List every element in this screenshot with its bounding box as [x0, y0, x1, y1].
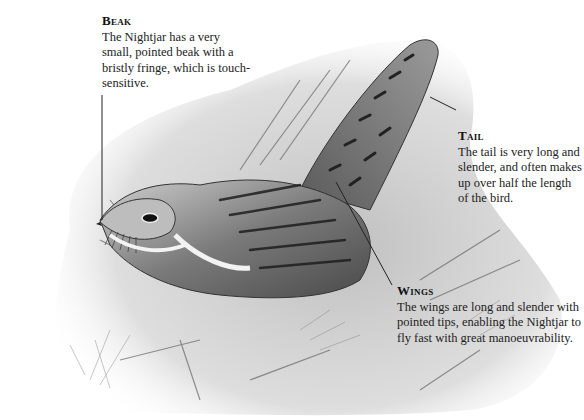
beak-description: The Nightjar has a very small, pointed b… [102, 30, 252, 92]
beak-title: Beak [102, 13, 131, 28]
tail-description: The tail is very long and slender, and o… [458, 145, 582, 207]
eye [142, 214, 158, 223]
wings-title: Wings [397, 283, 434, 298]
tail-title: Tail [458, 128, 484, 143]
tail-annotation: Tail The tail is very long and slender, … [458, 128, 582, 207]
wings-description: The wings are long and slender with poin… [397, 300, 582, 347]
wings-annotation: Wings The wings are long and slender wit… [397, 283, 582, 346]
beak-annotation: Beak The Nightjar has a very small, poin… [102, 13, 252, 92]
nightjar-illustration [0, 0, 584, 420]
